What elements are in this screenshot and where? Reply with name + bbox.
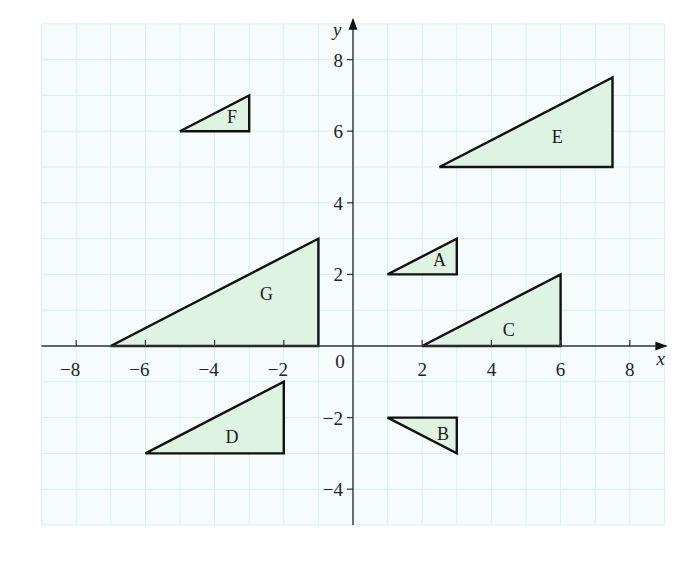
- y-tick-label: 6: [334, 121, 344, 142]
- y-tick-label: 2: [334, 264, 344, 285]
- triangle-label-e: E: [552, 127, 563, 147]
- x-tick-label: 4: [487, 359, 497, 380]
- y-tick-label: −4: [323, 479, 344, 500]
- y-tick-label: 4: [334, 193, 344, 214]
- x-tick-label: −4: [198, 359, 219, 380]
- x-tick-label: −6: [129, 359, 149, 380]
- origin-label: 0: [335, 351, 345, 372]
- triangle-label-f: F: [227, 107, 237, 127]
- triangle-label-a: A: [433, 250, 446, 270]
- x-tick-label: −8: [60, 359, 80, 380]
- x-tick-label: −2: [268, 359, 288, 380]
- x-tick-label: 8: [625, 359, 635, 380]
- triangle-label-g: G: [260, 284, 273, 304]
- triangle-label-c: C: [503, 320, 515, 340]
- y-tick-label: 8: [334, 50, 344, 71]
- y-axis-label: y: [331, 19, 342, 40]
- x-tick-label: 2: [417, 359, 427, 380]
- x-axis-label: x: [655, 348, 665, 369]
- coordinate-grid-chart: ABCDEFG xy −8−6−4−22468−4−224680: [0, 0, 691, 561]
- x-tick-label: 6: [556, 359, 566, 380]
- triangle-label-b: B: [437, 424, 449, 444]
- y-tick-label: −2: [323, 408, 343, 429]
- triangle-label-d: D: [225, 427, 238, 447]
